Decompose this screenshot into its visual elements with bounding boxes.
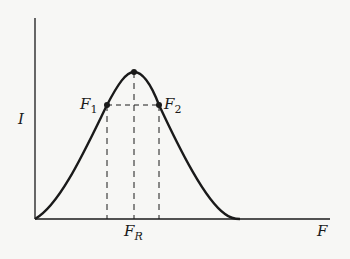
- resonance-diagram: I F F1 F2 FR: [0, 0, 350, 259]
- x-axis-label: F: [316, 222, 328, 240]
- f2-point: [156, 102, 162, 108]
- diagram-canvas: I F F1 F2 FR: [0, 0, 350, 259]
- resonance-curve: [35, 72, 240, 219]
- f1-label: F1: [79, 95, 97, 116]
- f2-label: F2: [163, 95, 181, 116]
- peak-point: [131, 69, 137, 75]
- f1-point: [104, 102, 110, 108]
- y-axis-label: I: [17, 110, 25, 128]
- fr-label: FR: [123, 222, 143, 243]
